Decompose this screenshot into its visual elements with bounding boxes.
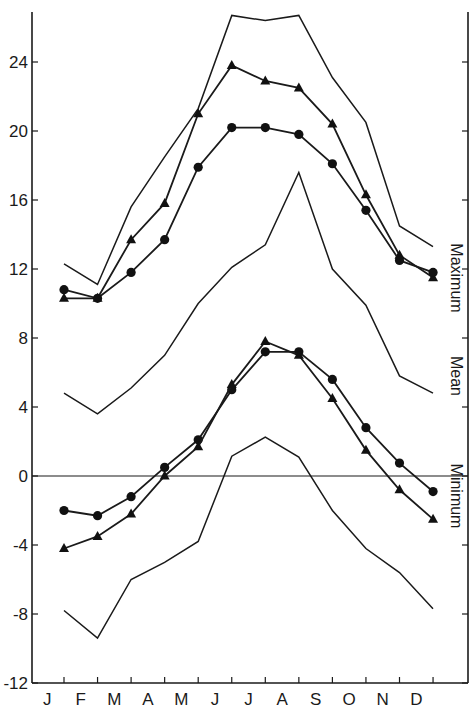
x-axis-month-labels: JFMAMJJASOND — [43, 690, 422, 709]
series-mean — [64, 172, 433, 414]
circle-marker-icon — [294, 130, 303, 139]
circle-marker-icon — [428, 268, 437, 277]
month-label: M — [107, 690, 121, 709]
triangle-marker-icon — [361, 189, 371, 198]
month-label: J — [43, 690, 52, 709]
series-line — [64, 65, 433, 298]
series-line — [64, 352, 433, 516]
month-label: N — [377, 690, 389, 709]
series-maximum-triangles — [59, 60, 438, 302]
circle-marker-icon — [361, 206, 370, 215]
circle-marker-icon — [127, 268, 136, 277]
triangle-marker-icon — [160, 198, 170, 207]
y-tick-label: -12 — [3, 674, 28, 693]
y-tick-label: 20 — [9, 122, 28, 141]
y-axis-tick-labels: 24201612840-4-8-12 — [3, 53, 28, 693]
circle-marker-icon — [227, 123, 236, 132]
series-layer — [59, 15, 438, 638]
series-maximum-circles — [59, 123, 437, 303]
y-tick-label: -8 — [13, 605, 28, 624]
y-tick-label: 8 — [19, 329, 28, 348]
triangle-marker-icon — [93, 531, 103, 540]
y-tick-label: 0 — [19, 467, 28, 486]
series-line — [64, 172, 433, 414]
series-line — [64, 437, 433, 638]
y-tick-label: 4 — [19, 398, 28, 417]
group-label-mean: Mean — [448, 356, 465, 396]
group-labels: MaximumMeanMinimum — [448, 243, 465, 528]
circle-marker-icon — [194, 163, 203, 172]
circle-marker-icon — [395, 458, 404, 467]
circle-marker-icon — [428, 487, 437, 496]
circle-marker-icon — [59, 285, 68, 294]
triangle-marker-icon — [260, 336, 270, 345]
month-label: F — [76, 690, 86, 709]
month-label: M — [174, 690, 188, 709]
series-minimum-circles — [59, 347, 437, 520]
circle-marker-icon — [59, 506, 68, 515]
y-tick-label: 12 — [9, 260, 28, 279]
y-tick-label: -4 — [13, 536, 28, 555]
y-tick-label: 16 — [9, 191, 28, 210]
axes — [32, 12, 468, 683]
month-label: A — [276, 690, 288, 709]
circle-marker-icon — [160, 235, 169, 244]
circle-marker-icon — [361, 423, 370, 432]
series-line — [64, 15, 433, 284]
temperature-chart: 24201612840-4-8-12 JFMAMJJASOND MaximumM… — [0, 0, 474, 714]
series-extreme-maximum — [64, 15, 433, 284]
group-label-maximum: Maximum — [448, 243, 465, 312]
circle-marker-icon — [127, 492, 136, 501]
circle-marker-icon — [261, 347, 270, 356]
triangle-marker-icon — [227, 60, 237, 69]
series-line — [64, 128, 433, 299]
month-label: J — [244, 690, 253, 709]
circle-marker-icon — [93, 294, 102, 303]
series-extreme-minimum — [64, 437, 433, 638]
month-label: A — [142, 690, 154, 709]
month-label: S — [310, 690, 321, 709]
month-label: D — [410, 690, 422, 709]
circle-marker-icon — [261, 123, 270, 132]
series-line — [64, 342, 433, 549]
month-label: O — [343, 690, 356, 709]
y-tick-label: 24 — [9, 53, 28, 72]
circle-marker-icon — [395, 256, 404, 265]
group-label-minimum: Minimum — [448, 464, 465, 529]
month-label: J — [211, 690, 220, 709]
circle-marker-icon — [328, 375, 337, 384]
circle-marker-icon — [328, 159, 337, 168]
circle-marker-icon — [93, 511, 102, 520]
